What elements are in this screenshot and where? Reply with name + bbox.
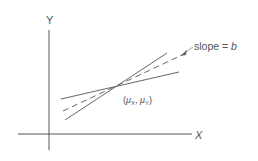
slope-label-prefix: slope = <box>194 40 231 52</box>
shallow-line <box>61 72 179 99</box>
mean-point-label: (μX, μY) <box>123 95 152 106</box>
y-axis-label: Y <box>46 14 54 26</box>
arrow-head-icon <box>180 50 187 56</box>
slope-label-var: b <box>231 40 237 52</box>
paren-close: ) <box>149 95 152 105</box>
regression-diagram: Y X slope = b (μX, μY) <box>0 0 258 161</box>
slope-label: slope = b <box>194 40 237 52</box>
x-axis-label: X <box>194 129 203 141</box>
